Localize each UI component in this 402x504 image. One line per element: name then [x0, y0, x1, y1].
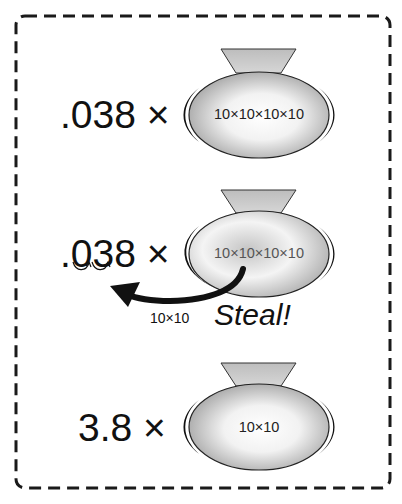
row-1-multiplier: .038 ×	[60, 95, 170, 134]
money-bag-3	[183, 363, 334, 470]
steal-label: Steal!	[214, 300, 291, 330]
money-bag-2	[184, 190, 334, 297]
arrow-label: 10×10	[150, 311, 189, 325]
bag-1-contents: 10×10×10×10	[189, 107, 329, 122]
money-bag-1	[183, 49, 334, 158]
bag-2-contents: 10×10×10×10	[189, 246, 329, 261]
row-3-multiplier: 3.8 ×	[78, 408, 166, 447]
row-2-multiplier: .038 ×	[60, 234, 170, 273]
bag-3-contents: 10×10	[189, 420, 329, 435]
